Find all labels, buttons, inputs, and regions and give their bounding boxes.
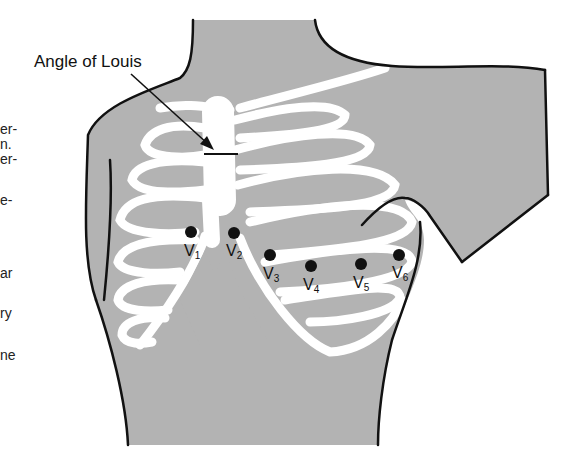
text-fragment: e- [0,193,12,207]
electrode-v1 [185,226,197,238]
lead-label-v3: V3 [263,265,279,284]
electrode-v2 [228,227,240,239]
text-fragment: n. [0,137,12,151]
electrode-v4 [305,260,317,272]
electrode-v6 [393,249,405,261]
lead-label-v6: V6 [392,264,408,283]
text-fragment: ar [0,266,12,280]
angle-of-louis-label: Angle of Louis [34,52,142,72]
lead-label-v5: V5 [353,274,369,293]
lead-label-v4: V4 [303,276,319,295]
lead-label-v1: V1 [184,242,200,261]
electrode-v3 [264,249,276,261]
text-fragment: ne [0,348,16,362]
lead-label-v2: V2 [226,242,242,261]
electrode-v5 [355,258,367,270]
text-fragment: er- [0,152,17,166]
text-fragment: er- [0,122,17,136]
text-fragment: ry [0,306,12,320]
